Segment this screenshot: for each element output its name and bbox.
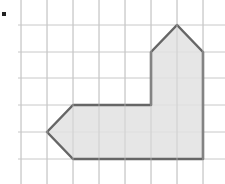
grid-diagram xyxy=(0,0,225,184)
